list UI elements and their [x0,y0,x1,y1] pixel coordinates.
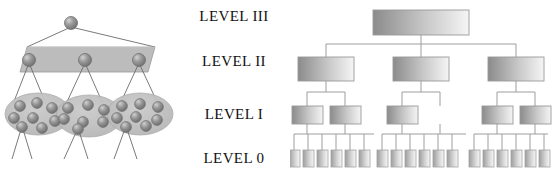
level3-to-level2-edges [27,27,155,47]
level-labels-column: LEVEL III LEVEL II LEVEL I LEVEL 0 [178,0,290,179]
tree-nodes-level2 [298,57,544,81]
right-diagram-svg [290,0,552,179]
level-label-3: LEVEL III [178,8,290,25]
level3-root-sphere [65,17,78,30]
level-label-2: LEVEL II [178,53,290,70]
figure-root: LEVEL III LEVEL II LEVEL I LEVEL 0 [0,0,552,179]
tree-nodes-level0 [290,150,550,167]
right-tree-diagram [290,0,552,179]
tree-connectors [294,35,548,150]
tree-node-level3 [373,10,469,35]
level-label-0: LEVEL 0 [178,150,290,167]
level-label-1: LEVEL I [178,106,290,123]
left-granular-diagram [0,0,178,179]
left-diagram-svg [0,0,178,179]
tree-nodes-level1 [292,106,551,124]
